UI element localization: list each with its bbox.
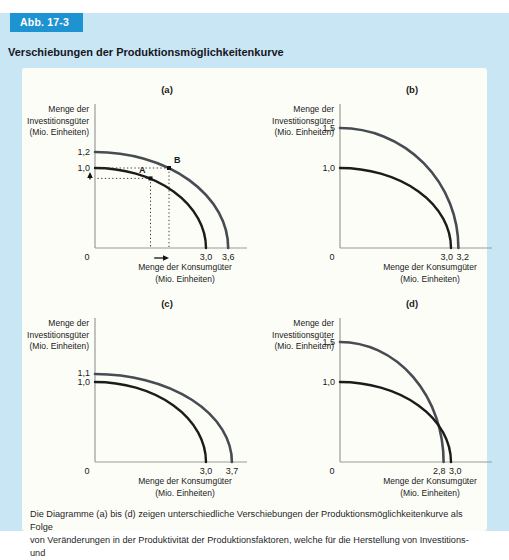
y-axis-label: (Mio. Einheiten) [29, 341, 89, 351]
right-arrow-icon [163, 255, 169, 261]
y-tick-label: 1,0 [77, 377, 90, 387]
ppf-curve-shifted [340, 342, 444, 462]
x-axis-label: Menge der Konsumgüter [383, 476, 477, 486]
point-label-B: B [174, 155, 181, 165]
x-tick-label: 3,0 [200, 466, 213, 476]
panel-label-b: (b) [406, 84, 418, 95]
x-tick-label: 2,8 [433, 466, 446, 476]
point-label-A: A [139, 165, 146, 175]
diagram-panel: (a)Menge derInvestitionsgüter(Mio. Einhe… [22, 68, 487, 531]
x-axis-label: Menge der Konsumgüter [383, 262, 477, 272]
figure-badge: Abb. 17-3 [10, 13, 83, 32]
ppf-curve-shifted [95, 374, 232, 462]
y-tick-label: 1,2 [77, 147, 90, 157]
y-tick-label: 1,0 [77, 163, 90, 173]
caption-line-1: Die Diagramme (a) bis (d) zeigen untersc… [30, 508, 485, 534]
figure-caption: Die Diagramme (a) bis (d) zeigen untersc… [30, 508, 485, 560]
chart-b: (b)Menge derInvestitionsgüter(Mio. Einhe… [275, 68, 503, 286]
ppf-curve-shifted [95, 152, 228, 248]
figure-box: Abb. 17-3 Verschiebungen der Produktions… [0, 13, 509, 531]
origin-label: 0 [84, 466, 89, 476]
ppf-curve-original [340, 382, 451, 462]
x-tick-label: 3,2 [456, 252, 469, 262]
panel-d: (d)Menge derInvestitionsgüter(Mio. Einhe… [275, 282, 503, 500]
chart-c: (c)Menge derInvestitionsgüter(Mio. Einhe… [30, 282, 258, 500]
chart-a: (a)Menge derInvestitionsgüter(Mio. Einhe… [30, 68, 258, 286]
panel-a: (a)Menge derInvestitionsgüter(Mio. Einhe… [30, 68, 258, 286]
y-axis-label: Investitionsgüter [27, 330, 89, 340]
point-B [167, 166, 171, 170]
panel-c: (c)Menge derInvestitionsgüter(Mio. Einhe… [30, 282, 258, 500]
y-axis-label: (Mio. Einheiten) [29, 127, 89, 137]
y-tick-label: 1,0 [322, 163, 335, 173]
x-tick-label: 3,0 [200, 252, 213, 262]
chart-d: (d)Menge derInvestitionsgüter(Mio. Einhe… [275, 282, 503, 500]
panel-label-d: (d) [406, 298, 418, 309]
origin-label: 0 [329, 466, 334, 476]
x-axis-label: Menge der Konsumgüter [138, 262, 232, 272]
figure-title: Verschiebungen der Produktionsmöglichkei… [8, 46, 284, 58]
x-tick-label: 3,0 [449, 466, 462, 476]
y-axis-label: Menge der [48, 318, 89, 328]
y-axis-label: Menge der [48, 104, 89, 114]
y-axis-label: Menge der [293, 318, 334, 328]
x-axis-label: (Mio. Einheiten) [155, 488, 215, 498]
panel-b: (b)Menge derInvestitionsgüter(Mio. Einhe… [275, 68, 503, 286]
ppf-curve-original [95, 382, 206, 462]
ppf-curve-shifted [340, 128, 458, 248]
x-tick-label: 3,6 [222, 252, 235, 262]
origin-label: 0 [329, 252, 334, 262]
y-tick-label: 1,5 [322, 337, 335, 347]
y-tick-label: 1,5 [322, 123, 335, 133]
caption-line-2: von Veränderungen in der Produktivität d… [30, 534, 485, 560]
x-axis-label: Menge der Konsumgüter [138, 476, 232, 486]
origin-label: 0 [84, 252, 89, 262]
point-A [149, 176, 153, 180]
x-tick-label: 3,7 [226, 466, 239, 476]
y-tick-label: 1,0 [322, 377, 335, 387]
x-tick-label: 3,0 [440, 252, 453, 262]
x-axis-label: (Mio. Einheiten) [400, 488, 460, 498]
ppf-curve-original [340, 168, 451, 248]
y-axis-label: Menge der [293, 104, 334, 114]
panel-label-a: (a) [161, 84, 173, 95]
y-axis-label: Investitionsgüter [27, 116, 89, 126]
panel-label-c: (c) [161, 298, 173, 309]
